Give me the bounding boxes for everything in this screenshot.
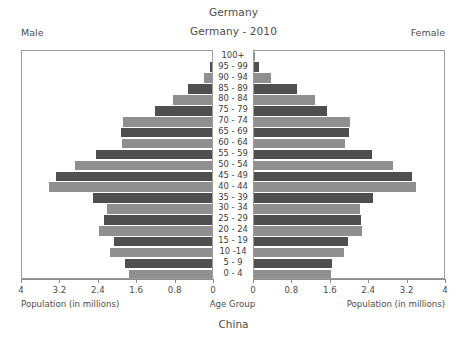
bar-row <box>22 138 212 149</box>
bar-row <box>22 215 212 226</box>
bar-male-20-24 <box>99 226 212 236</box>
bar-row <box>22 182 212 193</box>
bar-row <box>254 73 444 84</box>
bar-male-35-39 <box>93 193 212 203</box>
bar-male-80-84 <box>173 95 212 105</box>
bar-row <box>22 51 212 62</box>
axis-tick-label: 0.8 <box>285 285 299 295</box>
age-group-label: 90 - 94 <box>213 72 253 83</box>
bar-female-70-74 <box>254 117 350 127</box>
axis-tick-label: 0 <box>250 285 255 295</box>
female-x-axis <box>253 279 445 280</box>
bar-male-90-94 <box>204 73 212 83</box>
axis-tick <box>407 279 408 283</box>
bar-female-5-9 <box>254 259 332 269</box>
age-group-label: 0 - 4 <box>213 268 253 279</box>
bar-row <box>22 247 212 258</box>
male-x-axis <box>21 279 213 280</box>
bar-male-50-54 <box>75 161 212 171</box>
bar-female-40-44 <box>254 182 416 192</box>
chart-footer: China <box>0 318 467 330</box>
bar-female-15-19 <box>254 237 348 247</box>
bar-row <box>22 73 212 84</box>
bar-male-25-29 <box>104 215 212 225</box>
age-group-label: 60 - 64 <box>213 137 253 148</box>
age-group-label-column: 100+95 - 9990 - 9485 - 8980 - 8475 - 797… <box>213 50 253 279</box>
age-group-label: 75 - 79 <box>213 104 253 115</box>
axis-tick-label: 2.4 <box>91 285 105 295</box>
legend-label-female: Female <box>411 27 445 38</box>
bar-row <box>254 127 444 138</box>
axis-tick <box>330 279 331 283</box>
bar-row <box>254 106 444 117</box>
bar-female-20-24 <box>254 226 362 236</box>
age-group-label: 85 - 89 <box>213 83 253 94</box>
bar-male-55-59 <box>96 150 212 160</box>
bar-male-60-64 <box>122 139 212 149</box>
bar-female-45-49 <box>254 172 412 182</box>
axis-tick <box>291 279 292 283</box>
bar-male-95-99 <box>210 62 212 72</box>
bar-female-100+ <box>254 52 255 62</box>
bar-row <box>254 247 444 258</box>
bar-row <box>254 236 444 247</box>
age-group-label: 20 - 24 <box>213 224 253 235</box>
male-plot-panel <box>21 50 213 279</box>
axis-tick-label: 3.2 <box>53 285 67 295</box>
chart-title: Germany <box>0 6 467 18</box>
bar-row <box>22 171 212 182</box>
bar-female-75-79 <box>254 106 327 116</box>
age-group-label: 15 - 19 <box>213 235 253 246</box>
bar-row <box>254 62 444 73</box>
bar-row <box>254 149 444 160</box>
bar-male-70-74 <box>123 117 212 127</box>
age-group-label: 25 - 29 <box>213 213 253 224</box>
bar-row <box>254 269 444 279</box>
age-group-label: 45 - 49 <box>213 170 253 181</box>
axis-tick <box>175 279 176 283</box>
axis-tick <box>136 279 137 283</box>
axis-tick-label: 4 <box>18 285 23 295</box>
axis-tick-label: 1.6 <box>129 285 143 295</box>
bar-female-85-89 <box>254 84 297 94</box>
bar-male-10-14 <box>110 248 212 258</box>
bar-female-65-69 <box>254 128 349 138</box>
bar-row <box>22 193 212 204</box>
axis-tick-label: 1.6 <box>323 285 337 295</box>
bar-female-35-39 <box>254 193 373 203</box>
axis-tick <box>213 279 214 283</box>
age-group-label: 80 - 84 <box>213 93 253 104</box>
bar-row <box>22 95 212 106</box>
bar-row <box>22 84 212 95</box>
bar-row <box>254 225 444 236</box>
chart-subtitle: Germany - 2010 <box>0 25 467 37</box>
age-group-label: 95 - 99 <box>213 61 253 72</box>
axis-tick-label: 0 <box>210 285 215 295</box>
axis-tick <box>59 279 60 283</box>
age-group-label: 65 - 69 <box>213 126 253 137</box>
bar-row <box>254 160 444 171</box>
bar-female-0-4 <box>254 270 331 279</box>
bar-row <box>254 193 444 204</box>
bar-female-30-34 <box>254 204 360 214</box>
age-group-label: 10 -14 <box>213 246 253 257</box>
bar-male-75-79 <box>155 106 212 116</box>
age-group-label: 30 - 34 <box>213 202 253 213</box>
bar-row <box>22 225 212 236</box>
bar-row <box>254 204 444 215</box>
bar-male-85-89 <box>188 84 212 94</box>
population-pyramid-chart: Germany Germany - 2010 Male Female 100+9… <box>0 0 467 339</box>
bar-row <box>22 269 212 279</box>
bar-female-25-29 <box>254 215 361 225</box>
bar-male-30-34 <box>107 204 212 214</box>
axis-tick-label: 0.8 <box>168 285 182 295</box>
bar-row <box>22 160 212 171</box>
bar-female-10-14 <box>254 248 344 258</box>
legend-label-male: Male <box>21 27 44 38</box>
axis-tick-label: 3.2 <box>400 285 414 295</box>
age-group-label: 70 - 74 <box>213 115 253 126</box>
bar-row <box>22 62 212 73</box>
bar-male-45-49 <box>56 172 212 182</box>
age-group-label: 35 - 39 <box>213 192 253 203</box>
bar-row <box>22 204 212 215</box>
